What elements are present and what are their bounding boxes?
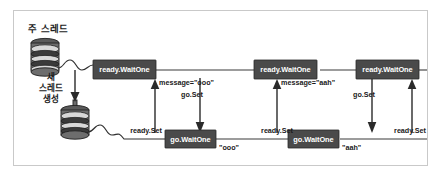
main-thread-icon bbox=[31, 38, 59, 76]
top-box-3-label: ready.WaitOne bbox=[362, 65, 412, 74]
bottom-box-2[interactable]: go.WaitOne bbox=[288, 130, 339, 148]
top-box-3[interactable]: ready.WaitOne bbox=[356, 60, 419, 79]
new-thread-label-line1: 새 bbox=[47, 71, 55, 82]
top-box-2-label: ready.WaitOne bbox=[260, 65, 310, 74]
annotation-message-aah: message="aah" bbox=[281, 78, 335, 87]
new-thread-label-line3: 생성 bbox=[43, 93, 59, 104]
diagram-figure: ready.WaitOne ready.WaitOne ready.WaitOn… bbox=[0, 0, 441, 178]
bottom-box-1-label: go.WaitOne bbox=[170, 135, 210, 144]
main-thread-label: 주 스레드 bbox=[28, 23, 67, 34]
annotation-go-set-1: go.Set bbox=[181, 90, 204, 99]
diagram-canvas: ready.WaitOne ready.WaitOne ready.WaitOn… bbox=[0, 0, 441, 178]
annotation-ready-set-3: ready.Set bbox=[394, 126, 426, 135]
annotation-go-set-2: go.Set bbox=[353, 90, 376, 99]
annotation-aah: "aah" bbox=[342, 143, 361, 152]
top-box-1[interactable]: ready.WaitOne bbox=[93, 60, 156, 79]
annotation-ready-set-2: ready.Set bbox=[261, 126, 293, 135]
new-thread-label-line2: 스레드 bbox=[39, 82, 63, 93]
annotation-ready-set-1: ready.Set bbox=[130, 126, 162, 135]
annotation-ooo: "ooo" bbox=[219, 143, 239, 152]
top-box-2[interactable]: ready.WaitOne bbox=[254, 60, 317, 79]
annotation-message-ooo: message="ooo" bbox=[159, 78, 214, 87]
top-box-1-label: ready.WaitOne bbox=[99, 65, 149, 74]
bottom-box-1[interactable]: go.WaitOne bbox=[165, 130, 216, 148]
bottom-box-2-label: go.WaitOne bbox=[293, 135, 333, 144]
